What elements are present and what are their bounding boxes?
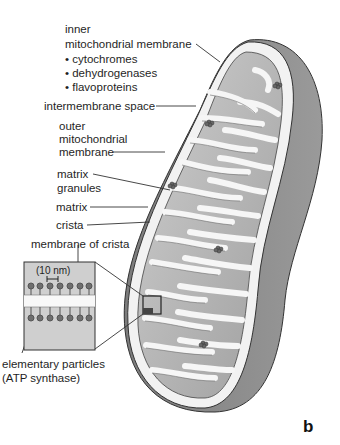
label-membrane-of-crista: membrane of crista xyxy=(31,237,129,251)
label-crista: crista xyxy=(56,218,83,232)
label-inner-membrane-1: inner xyxy=(65,22,91,36)
label-inner-bullet-1: • cytochromes xyxy=(65,52,137,66)
label-matrix-granules-1: matrix xyxy=(57,167,88,181)
label-outer-membrane-3: membrane xyxy=(59,145,114,159)
label-inner-membrane-2: mitochondrial membrane xyxy=(65,37,192,51)
label-outer-membrane-2: mitochondrial xyxy=(59,132,127,146)
label-scale: (10 nm) xyxy=(36,264,70,278)
label-elementary-particles-1: elementary particles xyxy=(2,357,105,371)
label-matrix-granules-2: granules xyxy=(57,181,101,195)
label-inner-bullet-2: • dehydrogenases xyxy=(65,66,157,80)
label-outer-membrane-1: outer xyxy=(59,119,85,133)
label-intermembrane-space: intermembrane space xyxy=(44,99,155,113)
panel-letter: b xyxy=(303,417,313,437)
label-inner-bullet-3: • flavoproteins xyxy=(65,80,137,94)
label-elementary-particles-2: (ATP synthase) xyxy=(2,371,80,385)
label-matrix: matrix xyxy=(56,200,87,214)
